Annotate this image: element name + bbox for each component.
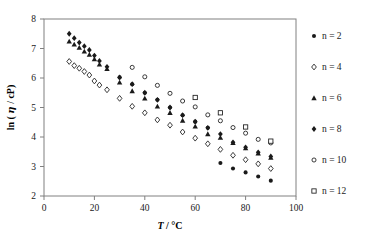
data-point: [143, 75, 147, 79]
data-point: [77, 65, 82, 71]
data-point: [231, 152, 236, 158]
data-point: [218, 131, 223, 137]
data-point: [205, 141, 210, 147]
data-point: [218, 111, 222, 115]
data-point: [218, 146, 223, 152]
data-point: [243, 125, 247, 129]
legend-label: n = 4: [322, 62, 342, 72]
data-point: [155, 83, 159, 87]
data-point: [87, 72, 92, 78]
data-point: [181, 99, 185, 103]
legend-item-n8[interactable]: n = 8: [312, 124, 342, 134]
data-point: [193, 135, 198, 141]
y-tick-label: 7: [31, 44, 36, 54]
legend-item-n12[interactable]: n = 12: [312, 186, 347, 196]
data-point: [155, 97, 160, 103]
data-point: [130, 81, 135, 87]
legend-item-n4[interactable]: n = 4: [312, 62, 342, 72]
data-point: [155, 104, 160, 109]
legend-marker-open-diamond: [312, 64, 317, 70]
data-point: [193, 105, 197, 109]
data-point: [67, 31, 72, 37]
series-n2: [118, 75, 273, 182]
data-point: [130, 65, 134, 69]
data-point: [268, 166, 273, 172]
data-point: [180, 129, 185, 135]
legend-item-n6[interactable]: n = 6: [311, 93, 342, 103]
data-point: [67, 39, 72, 44]
data-point: [105, 87, 110, 93]
y-tick-label: 2: [31, 191, 36, 201]
y-tick-label: 8: [31, 14, 36, 24]
data-point: [244, 131, 248, 135]
legend-marker-filled-triangle: [311, 95, 316, 100]
series-n10: [130, 65, 273, 145]
data-point: [218, 119, 222, 123]
data-point: [231, 126, 235, 130]
x-tick-label: 40: [140, 203, 150, 213]
data-point: [244, 170, 248, 174]
data-point: [269, 179, 273, 183]
data-point: [117, 75, 122, 81]
chart-legend: n = 2n = 4n = 6n = 8n = 10n = 12: [311, 31, 346, 196]
y-axis-title: ln ( η / cP): [5, 85, 17, 131]
chart-canvas: 020406080100 2345678 n = 2n = 4n = 6n = …: [0, 0, 383, 246]
data-point: [231, 167, 235, 171]
data-point: [97, 82, 102, 88]
data-point: [82, 43, 87, 49]
legend-item-n2[interactable]: n = 2: [312, 31, 342, 41]
data-point: [168, 91, 172, 95]
y-tick-label: 3: [31, 162, 36, 172]
data-point: [180, 118, 185, 123]
legend-label: n = 10: [322, 155, 347, 165]
data-point: [130, 103, 135, 109]
x-tick-label: 60: [190, 203, 200, 213]
data-point: [205, 131, 210, 136]
data-point: [256, 137, 260, 141]
data-point: [82, 69, 87, 75]
x-axis-tickmarks: [44, 196, 296, 200]
y-axis-tickmarks: [40, 19, 44, 196]
data-point: [117, 80, 122, 85]
legend-label: n = 12: [322, 186, 347, 196]
legend-marker-filled-circle: [312, 34, 316, 38]
data-point: [168, 122, 173, 128]
series-n4: [67, 59, 273, 172]
x-tick-label: 0: [42, 203, 47, 213]
data-point: [168, 105, 173, 111]
data-point: [243, 157, 248, 163]
data-point: [92, 53, 97, 59]
data-point: [142, 110, 147, 116]
data-point: [205, 125, 210, 131]
data-point: [206, 113, 210, 117]
legend-item-n10[interactable]: n = 10: [312, 155, 347, 165]
data-point: [97, 58, 102, 64]
data-point: [82, 49, 87, 54]
data-points-layer: [67, 31, 274, 183]
x-tick-label: 80: [241, 203, 251, 213]
data-point: [193, 119, 198, 125]
legend-marker-open-circle: [312, 158, 316, 162]
data-point: [117, 95, 122, 101]
data-point: [167, 110, 172, 115]
x-tick-label: 100: [289, 203, 304, 213]
data-point: [142, 90, 147, 96]
x-axis-title: T / °C: [157, 220, 182, 231]
y-tick-label: 5: [31, 103, 36, 113]
y-axis-tick-labels: 2345678: [31, 14, 36, 201]
data-point: [218, 161, 222, 165]
data-point: [269, 139, 273, 143]
data-point: [72, 42, 77, 47]
data-point: [92, 78, 97, 84]
data-point: [72, 35, 77, 41]
legend-marker-filled-diamond: [312, 126, 317, 132]
legend-label: n = 2: [322, 31, 342, 41]
data-point: [105, 64, 110, 70]
y-tick-label: 6: [31, 73, 36, 83]
data-point: [155, 117, 160, 123]
data-point: [193, 95, 197, 99]
legend-label: n = 8: [322, 124, 342, 134]
data-point: [77, 40, 82, 46]
data-point: [256, 161, 261, 167]
legend-marker-open-square: [312, 189, 316, 193]
